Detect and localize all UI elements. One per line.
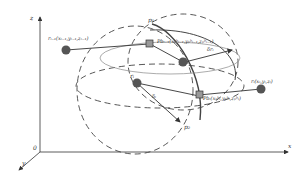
diagram-canvas: [0, 0, 304, 183]
label-p2: p₂: [184, 124, 190, 130]
pbs-top-square: [146, 40, 153, 47]
origin-label: 0: [33, 145, 37, 151]
x-axis-label: x: [288, 143, 291, 149]
node-r-prev: [62, 46, 71, 55]
label-p1: p₁: [148, 17, 154, 23]
node-center: [179, 58, 188, 67]
node-r-next: [257, 85, 266, 94]
pbs-bottom-square: [196, 91, 203, 98]
label-r-curr: rᵢ: [130, 73, 134, 79]
label-delta-upper: δrᵢ: [207, 47, 213, 52]
connections: [66, 44, 261, 122]
y-axis-label: y: [22, 160, 25, 166]
label-delta-lower: δᵢ: [152, 94, 156, 99]
label-r-prev: rᵢ₋₁(xᵢ₋₁,yᵢ₋₁,zᵢ₋₁): [48, 36, 88, 41]
dashed-spheres: [76, 14, 244, 154]
node-r-curr: [133, 79, 142, 88]
z-axis-label: z: [30, 15, 33, 21]
label-pbs-bottom: Pbᵢ(xₚᵇᵢ,yₚᵇᵢ,zₚᵇᵢ): [203, 96, 241, 101]
label-pbs-top: Pbᵢ₋₁(xₚᵇᵢ₋₁,yₚᵇᵢ₋₁,zₚᵇᵢ₋₁): [157, 39, 214, 44]
label-r-next: rᵢ(xᵢ,yᵢ,zᵢ): [251, 79, 273, 84]
